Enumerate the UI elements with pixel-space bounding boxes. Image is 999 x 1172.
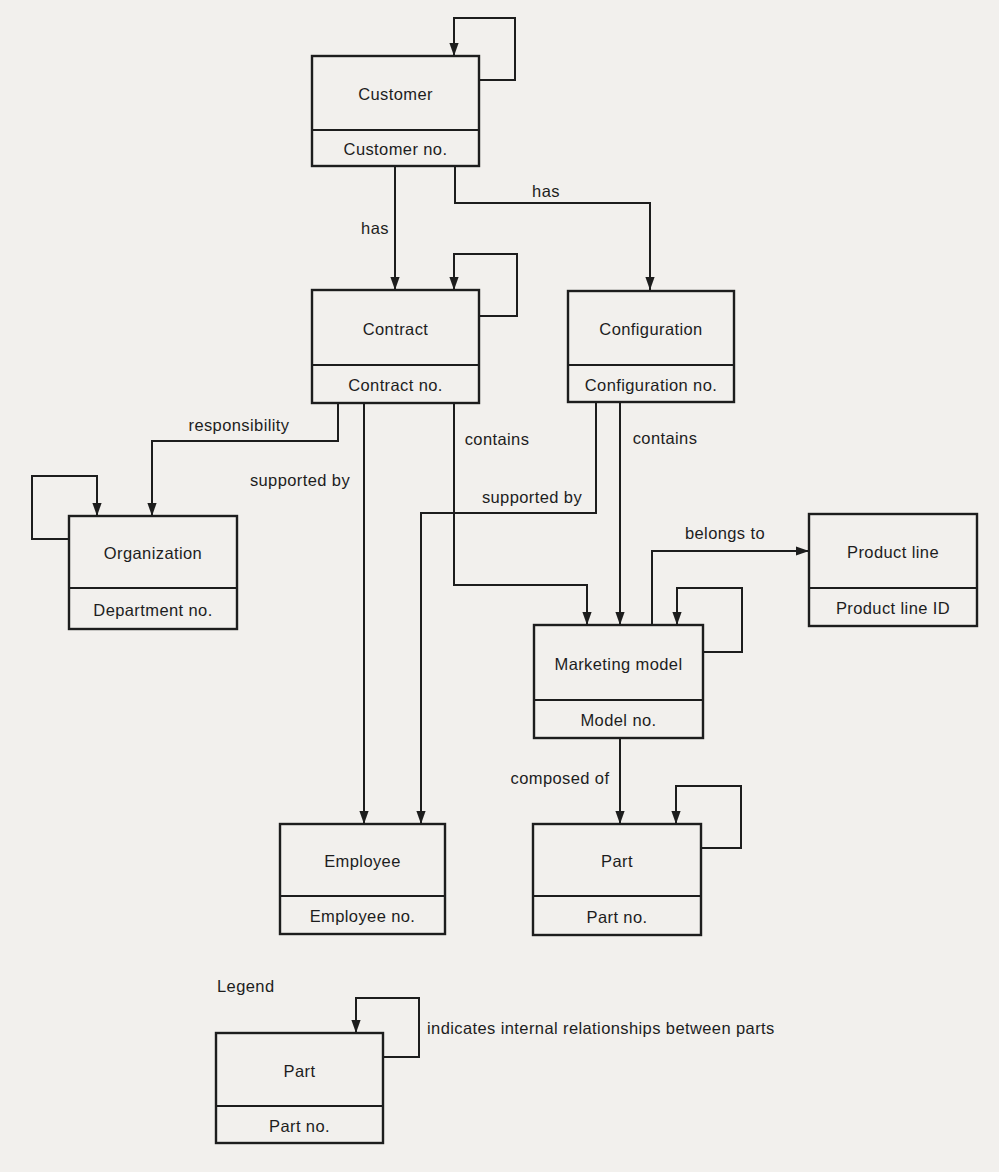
relationship-customer-has-configuration: has — [455, 166, 655, 290]
contract-contains-marketing-model-label: contains — [465, 430, 530, 448]
customer-attribute: Customer no. — [344, 140, 448, 158]
part-name: Part — [601, 852, 633, 870]
organization-attribute: Department no. — [93, 601, 212, 619]
customer-has-configuration-label: has — [532, 182, 560, 200]
arrowhead-icon — [390, 277, 399, 290]
relationship-customer-has-contract: has — [361, 166, 400, 290]
employee-name: Employee — [324, 852, 401, 870]
entity-customer: CustomerCustomer no. — [312, 56, 479, 166]
arrowhead-icon — [615, 612, 624, 625]
legend-title: Legend — [217, 977, 274, 995]
arrowhead-icon — [615, 811, 624, 824]
configuration-name: Configuration — [599, 320, 702, 338]
arrowhead-icon — [645, 277, 654, 290]
entity-part: PartPart no. — [533, 824, 701, 935]
contract-responsibility-organization-label: responsibility — [189, 416, 290, 434]
arrowhead-icon — [672, 612, 681, 625]
entity-employee: EmployeeEmployee no. — [280, 824, 445, 934]
arrowhead-icon — [671, 811, 680, 824]
entity-organization: OrganizationDepartment no. — [69, 516, 237, 629]
arrowhead-icon — [416, 811, 425, 824]
legend-part-name: Part — [284, 1062, 316, 1080]
legend-part-attribute: Part no. — [269, 1117, 330, 1135]
relationship-configuration-supported-by-employee: supported by — [416, 402, 596, 824]
customer-has-contract-label: has — [361, 219, 389, 237]
arrowhead-icon — [582, 612, 591, 625]
entity-product-line: Product lineProduct line ID — [809, 514, 977, 626]
contract-name: Contract — [363, 320, 429, 338]
arrowhead-icon — [147, 503, 156, 516]
organization-name: Organization — [104, 544, 202, 562]
product-line-attribute: Product line ID — [836, 599, 950, 617]
marketing-model-composed-of-part-label: composed of — [511, 769, 610, 787]
marketing-model-attribute: Model no. — [580, 711, 656, 729]
relationship-contract-supported-by-employee: supported by — [250, 403, 369, 824]
arrowhead-icon — [449, 277, 458, 290]
arrowhead-icon — [449, 43, 458, 56]
legend-note: indicates internal relationships between… — [427, 1019, 775, 1037]
contract-attribute: Contract no. — [348, 376, 443, 394]
arrowhead-icon — [359, 811, 368, 824]
arrowhead-icon — [351, 1020, 360, 1033]
relationship-contract-responsibility-organization: responsibility — [147, 403, 338, 516]
configuration-attribute: Configuration no. — [585, 376, 717, 394]
relationship-marketing-model-composed-of-part: composed of — [511, 738, 625, 824]
entity-contract: ContractContract no. — [312, 290, 479, 403]
er-diagram-page: hashasresponsibilitysupported bycontains… — [0, 0, 999, 1172]
marketing-model-belongs-to-product-line-label: belongs to — [685, 524, 765, 542]
entity-legend-part: PartPart no. — [216, 1033, 383, 1143]
part-attribute: Part no. — [587, 908, 648, 926]
arrowhead-icon — [796, 546, 809, 555]
customer-name: Customer — [358, 85, 433, 103]
relationship-configuration-contains-marketing-model: contains — [615, 402, 697, 625]
er-diagram: hashasresponsibilitysupported bycontains… — [0, 0, 999, 1172]
configuration-contains-marketing-model-label: contains — [633, 429, 698, 447]
arrowhead-icon — [92, 503, 101, 516]
marketing-model-name: Marketing model — [555, 655, 683, 673]
entity-configuration: ConfigurationConfiguration no. — [568, 291, 734, 402]
configuration-supported-by-employee-label: supported by — [482, 488, 583, 506]
relationship-marketing-model-belongs-to-product-line: belongs to — [652, 524, 809, 625]
entity-marketing-model: Marketing modelModel no. — [534, 625, 703, 738]
contract-supported-by-employee-label: supported by — [250, 471, 351, 489]
employee-attribute: Employee no. — [310, 907, 416, 925]
product-line-name: Product line — [847, 543, 939, 561]
configuration-supported-by-employee-line — [421, 402, 596, 824]
